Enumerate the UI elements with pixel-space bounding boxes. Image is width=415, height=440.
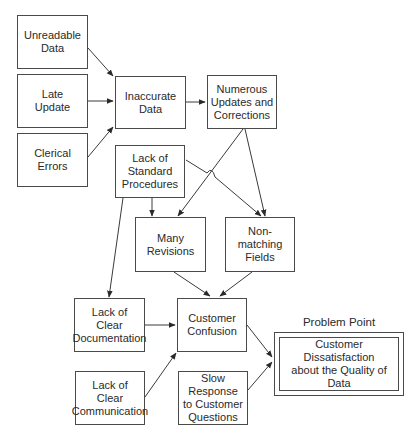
arrow-standard-to-documentation (109, 198, 123, 297)
arrow-confusion-to-problem (247, 325, 272, 357)
node-inaccurate-data: Inaccurate Data (115, 76, 186, 129)
node-lack-clear-documentation: Lack of Clear Documentation (74, 298, 145, 352)
arrow-numerous-to-nonmatching (245, 129, 265, 216)
arrow-communication-to-confusion (145, 353, 176, 397)
node-label: Unreadable Data (24, 29, 81, 55)
node-lack-standard-procedures: Lack of Standard Procedures (115, 145, 185, 198)
node-label: Slow Response to Customer Questions (181, 372, 245, 424)
node-unreadable-data: Unreadable Data (17, 15, 88, 69)
node-clerical-errors: Clerical Errors (17, 133, 88, 187)
node-label: Late Update (35, 88, 70, 114)
problem-point-label: Problem Point (274, 316, 404, 328)
node-label: Many Revisions (147, 232, 195, 258)
arrow-unreadable-to-inaccurate (88, 48, 113, 76)
node-customer-confusion: Customer Confusion (177, 298, 247, 352)
node-late-update: Late Update (17, 74, 88, 128)
arrow-numerous-to-revisions (178, 129, 243, 216)
node-label: Non-matching Fields (228, 225, 292, 264)
arrow-revisions-to-confusion (174, 272, 210, 296)
node-label: Clerical Errors (34, 147, 71, 173)
node-lack-clear-communication: Lack of Clear Communication (75, 371, 145, 425)
arrow-nonmatching-to-confusion (220, 272, 252, 296)
node-label: Customer Dissatisfaction about the Quali… (282, 338, 396, 390)
arrow-slow-to-problem (248, 362, 272, 390)
node-slow-response: Slow Response to Customer Questions (178, 371, 248, 425)
arrow-standard-to-nonmatching (186, 160, 261, 216)
node-numerous-updates: Numerous Updates and Corrections (207, 75, 277, 129)
node-label: Inaccurate Data (125, 90, 176, 116)
node-label: Lack of Clear Documentation (73, 306, 147, 345)
node-many-revisions: Many Revisions (135, 217, 206, 272)
node-label: Numerous Updates and Corrections (211, 83, 273, 122)
node-customer-dissatisfaction: Customer Dissatisfaction about the Quali… (279, 337, 399, 391)
node-label: Customer Confusion (187, 312, 237, 338)
node-label: Lack of Standard Procedures (122, 152, 178, 191)
node-label: Lack of Clear Communication (72, 379, 148, 418)
arrow-clerical-to-inaccurate (88, 127, 113, 157)
node-nonmatching-fields: Non-matching Fields (225, 217, 295, 272)
